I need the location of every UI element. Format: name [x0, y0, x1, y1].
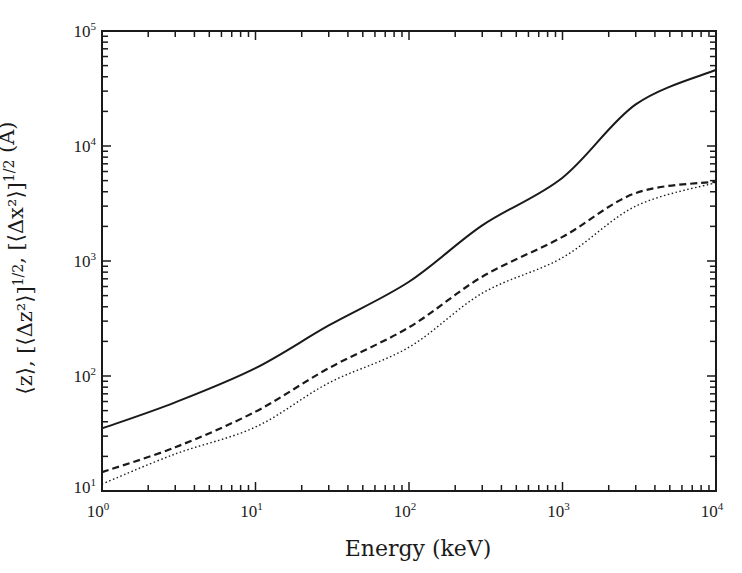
x-axis-title: Energy (keV) — [345, 536, 492, 561]
plot-frame — [102, 31, 716, 491]
x-tick-label: 103 — [547, 500, 570, 521]
x-tick-label: 101 — [240, 500, 263, 521]
log-log-line-chart: 100101102103104 101102103104105 Energy (… — [0, 0, 742, 573]
series-dotted-line — [102, 183, 716, 484]
x-tick-label: 102 — [394, 500, 417, 521]
series-solid-line — [102, 70, 716, 429]
y-tick-label: 104 — [74, 135, 97, 156]
y-axis-title: ⟨z⟩, [⟨Δz²⟩]1/2, [⟨Δx²⟩]1/2 (Å) — [0, 121, 37, 394]
axis-ticks — [102, 31, 716, 491]
x-tick-label: 100 — [87, 500, 110, 521]
svg-text:⟨z⟩, [⟨Δz²⟩]1/2, [⟨Δx²⟩]1/2 (Å: ⟨z⟩, [⟨Δz²⟩]1/2, [⟨Δx²⟩]1/2 (Å) — [0, 121, 37, 394]
y-tick-label: 103 — [74, 250, 97, 271]
y-tick-label: 105 — [74, 20, 97, 41]
data-curves — [102, 70, 716, 484]
y-tick-label: 101 — [74, 476, 97, 497]
x-tick-label: 104 — [701, 500, 724, 521]
y-tick-labels: 101102103104105 — [74, 20, 97, 497]
series-dashed-line — [102, 182, 716, 472]
y-tick-label: 102 — [74, 365, 97, 386]
x-tick-labels: 100101102103104 — [87, 500, 724, 521]
